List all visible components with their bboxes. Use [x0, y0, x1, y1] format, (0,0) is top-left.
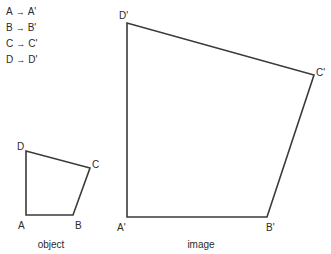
object-vertex-d-label: D — [17, 141, 24, 152]
image-quadrilateral — [127, 23, 314, 217]
image-vertex-b-label: B' — [266, 222, 275, 233]
object-quadrilateral — [26, 151, 90, 215]
image-vertex-a-label: A' — [117, 222, 126, 233]
object-vertex-b-label: B — [75, 220, 82, 231]
image-caption: image — [187, 239, 215, 250]
object-vertex-a-label: A — [18, 220, 25, 231]
image-vertex-c-label: C' — [316, 67, 325, 78]
object-vertex-c-label: C — [92, 159, 99, 170]
image-vertex-d-label: D' — [119, 10, 128, 21]
transformation-diagram: A B C D object A' B' C' D' image — [0, 0, 331, 254]
object-caption: object — [38, 239, 65, 250]
